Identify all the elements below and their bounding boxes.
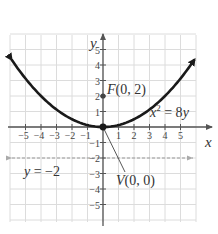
y-tick-label: −4 [89,184,100,195]
vertex-label: V(0, 0) [116,173,155,189]
x-tick-label: −2 [65,130,76,141]
parabola-chart: −5−4−3−2−112345−5−4−3−2−112345 y x F(0, … [0,0,218,234]
x-tick-label: 2 [132,130,137,141]
x-tick-label: 4 [163,130,168,141]
x-tick-label: −3 [49,130,60,141]
vertex-point [100,124,107,131]
y-tick-label: −2 [89,153,100,164]
x-tick-label: −4 [34,130,45,141]
vertex-pointer-line [103,127,125,172]
y-tick-label: 2 [95,91,100,102]
x-tick-label: 5 [178,130,183,141]
focus-label: F(0, 2) [106,82,146,98]
x-tick-label: −5 [18,130,29,141]
equation-label: x2 = 8y [149,103,190,120]
y-axis-label: y [88,35,97,51]
x-axis-label: x [204,134,212,150]
x-tick-label: 1 [116,130,121,141]
focus-point [100,93,105,98]
directrix-label: y = −2 [22,164,60,179]
y-tick-label: 3 [95,76,100,87]
y-tick-label: −3 [89,169,100,180]
x-tick-label: 3 [147,130,152,141]
y-tick-label: 1 [95,107,100,118]
y-tick-label: 4 [95,60,100,71]
y-tick-label: −5 [89,200,100,211]
y-tick-label: −1 [89,138,100,149]
